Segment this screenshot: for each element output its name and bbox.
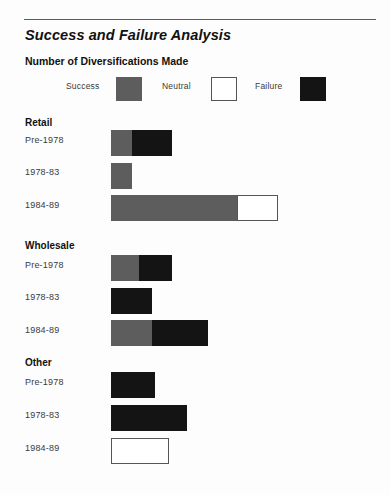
bar-segment-success — [111, 163, 132, 189]
row-label-wholesale-1978-83: 1978-83 — [25, 292, 59, 302]
bar-segment-success — [111, 195, 237, 221]
row-label-other-1984-89: 1984-89 — [25, 443, 59, 453]
bar-segment-failure — [139, 255, 172, 281]
legend-label-neutral: Neutral — [162, 81, 191, 91]
group-title-other: Other — [25, 357, 52, 368]
bar-wholesale-1978-83 — [111, 288, 152, 314]
bar-retail-1984-89 — [111, 195, 278, 221]
legend-label-success: Success — [66, 81, 100, 91]
bar-other-pre-1978 — [111, 372, 155, 398]
bar-segment-failure — [111, 372, 155, 398]
gray-swatch-icon — [116, 77, 142, 101]
row-label-wholesale-1984-89: 1984-89 — [25, 325, 59, 335]
bar-wholesale-1984-89 — [111, 320, 208, 346]
chart-legend: Success Neutral Failure — [25, 76, 365, 104]
row-label-other-1978-83: 1978-83 — [25, 410, 59, 420]
row-label-wholesale-pre-1978: Pre-1978 — [25, 260, 64, 270]
group-title-retail: Retail — [25, 117, 52, 128]
legend-label-failure: Failure — [255, 81, 282, 91]
row-label-retail-pre-1978: Pre-1978 — [25, 135, 64, 145]
bar-segment-neutral — [111, 438, 169, 464]
page-title: Success and Failure Analysis — [25, 27, 231, 43]
bar-segment-failure — [111, 405, 187, 431]
bar-segment-failure — [152, 320, 208, 346]
row-label-other-pre-1978: Pre-1978 — [25, 377, 64, 387]
bar-wholesale-pre-1978 — [111, 255, 172, 281]
chart-subtitle: Number of Diversifications Made — [25, 55, 188, 67]
bar-other-1984-89 — [111, 438, 169, 464]
bar-segment-failure — [111, 288, 152, 314]
bar-segment-neutral — [237, 195, 278, 221]
bar-retail-pre-1978 — [111, 130, 172, 156]
bar-segment-success — [111, 255, 139, 281]
header-rule — [24, 19, 376, 20]
row-label-retail-1978-83: 1978-83 — [25, 167, 59, 177]
black-swatch-icon — [300, 77, 326, 101]
row-label-retail-1984-89: 1984-89 — [25, 200, 59, 210]
group-title-wholesale: Wholesale — [25, 240, 74, 251]
bar-segment-failure — [132, 130, 172, 156]
chart-page: Success and Failure Analysis Number of D… — [0, 0, 390, 495]
bar-other-1978-83 — [111, 405, 187, 431]
bar-segment-success — [111, 320, 152, 346]
bar-retail-1978-83 — [111, 163, 132, 189]
bar-segment-success — [111, 130, 132, 156]
white-swatch-icon — [211, 77, 237, 101]
